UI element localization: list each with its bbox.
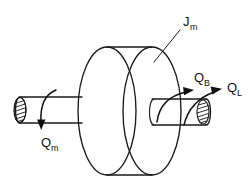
right-hatch-5 bbox=[199, 117, 208, 120]
inertia-label-subscript: m bbox=[190, 22, 198, 32]
motor-torque-label: Q m bbox=[41, 135, 59, 153]
rotor-back-face-ellipse bbox=[78, 47, 136, 175]
right-hatch-4 bbox=[198, 113, 209, 117]
rotor-body-group bbox=[78, 47, 181, 175]
load-torque-label-subscript: L bbox=[237, 88, 242, 98]
motor-torque-label-symbol: Q bbox=[41, 135, 51, 150]
left-shaft-group bbox=[14, 97, 82, 123]
inertia-label: J m bbox=[183, 14, 198, 32]
load-torque-label: Q L bbox=[227, 80, 242, 98]
bearing-torque-label-subscript: B bbox=[204, 78, 210, 88]
right-shaft-hatched-section bbox=[197, 100, 209, 124]
bearing-torque-label: Q B bbox=[194, 70, 210, 88]
bearing-torque-label-symbol: Q bbox=[194, 70, 204, 85]
rotor-front-face-ellipse bbox=[123, 47, 181, 175]
bearing-torque-arrow-curve bbox=[157, 92, 186, 122]
right-hatch-3 bbox=[197, 109, 209, 113]
bearing-torque-arrowhead bbox=[183, 87, 194, 95]
motor-torque-arrowhead bbox=[37, 120, 45, 131]
bearing-torque-arrow bbox=[157, 87, 194, 122]
right-hatch-2 bbox=[197, 106, 208, 109]
motor-torque-label-subscript: m bbox=[51, 143, 59, 153]
inertia-label-symbol: J bbox=[183, 14, 190, 29]
rotor-torque-diagram: J m Q m Q B Q L bbox=[0, 0, 251, 187]
right-shaft-root-curve bbox=[150, 99, 155, 125]
motor-torque-arrow bbox=[37, 90, 56, 130]
load-torque-label-symbol: Q bbox=[227, 80, 237, 95]
load-torque-arrowhead bbox=[211, 86, 222, 94]
motor-torque-arrow-curve bbox=[41, 90, 56, 122]
diagram-canvas: J m Q m Q B Q L bbox=[0, 0, 251, 187]
